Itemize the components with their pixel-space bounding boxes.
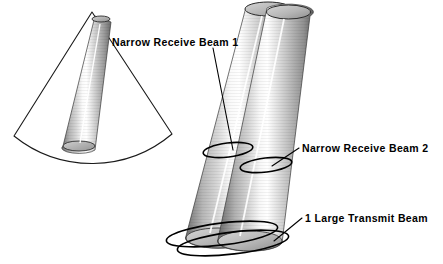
label-narrow-receive-beam-1: Narrow Receive Beam 1: [112, 36, 238, 48]
cone-b-apex-cap: [267, 5, 311, 19]
narrow-cone-base-ellipse: [63, 141, 95, 151]
narrow-cone-apex-cap: [92, 16, 110, 22]
label-narrow-receive-beam-2: Narrow Receive Beam 2: [302, 142, 428, 154]
diagram-canvas: Narrow Receive Beam 1 Narrow Receive Bea…: [0, 0, 443, 264]
label-one-large-transmit-beam: 1 Large Transmit Beam: [305, 212, 428, 224]
beam-pattern-diagram: Narrow Receive Beam 1 Narrow Receive Bea…: [0, 0, 443, 264]
